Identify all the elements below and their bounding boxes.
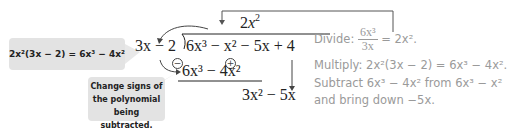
dividend: 6x³ − x² − 5x + 4 (186, 37, 295, 55)
divisor: 3x − 2 (135, 37, 176, 55)
multiply-callout-text: 2x²(3x − 2) = 6x³ − 4x² (9, 49, 125, 59)
callout-line-1: Change signs of (88, 80, 165, 93)
step-subtract: Subtract 6x³ − 4x² from 6x³ − x² (314, 76, 502, 90)
remainder: 3x² − 5x (242, 86, 296, 104)
divide-fraction: 6x³3x (358, 26, 378, 53)
quotient: 2x2 (240, 14, 260, 32)
step-multiply: Multiply: 2x²(3x − 2) = 6x³ − 4x². (314, 58, 507, 72)
callout-line-2: the polynomial (88, 93, 165, 106)
step-divide: Divide: 6x³3x = 2x². (314, 26, 417, 53)
subtracted-polynomial: 6x³ − 4x² (182, 62, 241, 80)
step-bring-down: and bring down −5x. (314, 93, 435, 107)
callout-line-3: being subtracted. (88, 106, 165, 132)
change-signs-callout: Change signs of the polynomial being sub… (88, 77, 165, 121)
multiply-callout: 2x²(3x − 2) = 6x³ − 4x² (9, 38, 125, 70)
